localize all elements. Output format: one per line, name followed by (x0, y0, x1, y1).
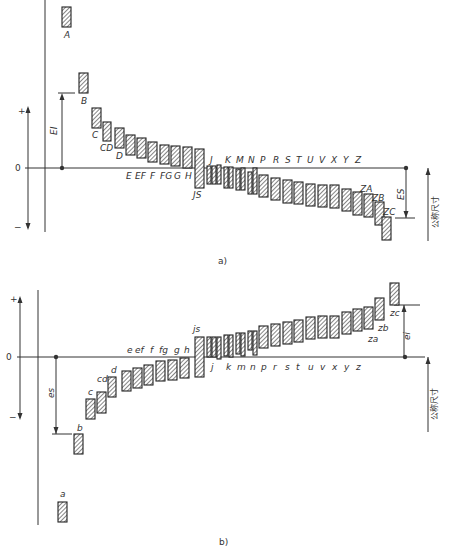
bar-label: zb (377, 323, 389, 333)
tolerance-bar-z (353, 309, 362, 331)
tolerance-bar-n1 (248, 331, 252, 350)
arrow-up-icon (26, 106, 31, 113)
tolerance-bar-g (168, 360, 177, 380)
tolerance-bar-u (306, 317, 315, 339)
tolerance-bar-v (318, 316, 327, 338)
bar-label: b (77, 423, 83, 433)
bar-label: j (209, 362, 214, 372)
bar-label: U (307, 155, 314, 165)
tolerance-bar-c (92, 108, 101, 128)
tolerance-bar-j2 (212, 337, 216, 357)
tolerance-bar-h (183, 147, 192, 168)
tolerance-bar-z (353, 192, 362, 215)
tolerance-bar-k1 (224, 335, 228, 356)
bar-label: f (150, 345, 155, 355)
arrow-down-icon (26, 223, 31, 230)
deviation-diagram: + − 0 EI ES 公称尺寸 ABCCDDJSZAZBZCEEFFFGGHJ… (0, 0, 449, 553)
ei-origin-dot (403, 355, 407, 359)
bar-label: n (250, 362, 256, 372)
tolerance-bar-m2 (241, 333, 245, 356)
arrow-up-icon (426, 168, 431, 175)
caption-b: b) (219, 537, 228, 547)
tolerance-bar-za (364, 307, 373, 329)
tolerance-bar-h (180, 358, 189, 378)
tolerance-bar-js (195, 337, 204, 377)
minus-label: − (9, 412, 17, 422)
bar-label: ZB (371, 193, 384, 203)
tolerance-bar-p (259, 175, 268, 197)
tolerance-bar-s (283, 180, 292, 203)
bar-label: Y (343, 155, 350, 165)
tolerance-bar-t (294, 182, 303, 204)
ei-label: ei (402, 331, 412, 340)
part-b-shafts: + − 0 es ei 公称尺寸 abccddjszazbzceefffgghj… (6, 283, 439, 547)
tolerance-bar-v (318, 185, 327, 207)
bar-label: J (208, 155, 213, 165)
tolerance-bar-ef (133, 368, 142, 388)
bar-label: e (127, 345, 133, 355)
bar-label: k (226, 362, 232, 372)
tolerance-bar-y (342, 189, 351, 211)
nominal-size-label: 公称尺寸 (430, 196, 440, 228)
bar-label: zc (389, 308, 400, 318)
tolerance-bar-js (195, 149, 204, 188)
tolerance-bar-a (58, 502, 67, 522)
tolerance-bar-m1 (236, 333, 240, 354)
tolerance-bar-zb (375, 298, 384, 320)
tolerance-bar-n2 (253, 331, 257, 355)
bar-label: x (331, 362, 338, 372)
bar-label: X (330, 155, 338, 165)
tolerance-bar-k1 (224, 167, 228, 188)
plus-label: + (10, 294, 18, 304)
tolerance-bar-y (342, 312, 351, 334)
bar-label: CD (100, 143, 113, 153)
tolerance-bar-d (115, 128, 124, 148)
tolerance-bar-j3 (217, 165, 221, 184)
bar-label: ZC (382, 207, 396, 217)
tolerance-bar-x (330, 316, 339, 338)
bar-label: t (296, 362, 300, 372)
tolerance-bar-r (271, 178, 280, 200)
caption-a: a) (218, 256, 227, 266)
tolerance-bar-cd (97, 392, 106, 413)
bar-label: z (355, 362, 361, 372)
bar-label: N (248, 155, 255, 165)
tolerance-bar-g (171, 146, 180, 166)
bar-label: S (285, 155, 291, 165)
tolerance-bar-c (86, 399, 95, 419)
tolerance-bar-b (74, 434, 83, 454)
bar-label: M (236, 155, 244, 165)
tolerance-bar-zc (390, 283, 399, 305)
tolerance-bar-j2 (212, 166, 216, 184)
bar-label: c (88, 387, 93, 397)
nominal-size-label: 公称尺寸 (429, 388, 439, 420)
tolerance-bar-s (283, 322, 292, 344)
bar-label: E (126, 171, 132, 181)
bar-label: K (225, 155, 232, 165)
tolerance-bar-d (108, 377, 116, 397)
shaft-bars (58, 283, 399, 522)
tolerance-bar-a (62, 7, 71, 27)
bar-label: r (273, 362, 278, 372)
bar-label: ZA (359, 184, 372, 194)
bar-label: T (296, 155, 303, 165)
tolerance-bar-n1 (248, 172, 252, 194)
arrow-down-icon (18, 413, 23, 420)
tolerance-bar-p (259, 326, 268, 348)
bar-label: Z (354, 155, 362, 165)
bar-label: G (174, 171, 181, 181)
bar-label: p (260, 362, 267, 372)
part-a-holes: + − 0 EI ES 公称尺寸 ABCCDDJSZAZBZCEEFFFGGHJ… (14, 0, 440, 266)
tolerance-bar-e (122, 371, 131, 391)
tolerance-bar-j1 (207, 337, 211, 357)
arrow-up-icon (426, 357, 431, 364)
bar-label: za (367, 334, 378, 344)
bar-label: A (63, 30, 70, 40)
tolerance-bar-fg (160, 145, 169, 164)
bar-label: y (343, 362, 350, 372)
bar-label: h (184, 345, 190, 355)
bar-label: fg (159, 345, 168, 355)
tolerance-bar-n2 (253, 168, 257, 194)
ei-label: EI (49, 126, 59, 135)
arrow-up-icon (60, 93, 65, 100)
